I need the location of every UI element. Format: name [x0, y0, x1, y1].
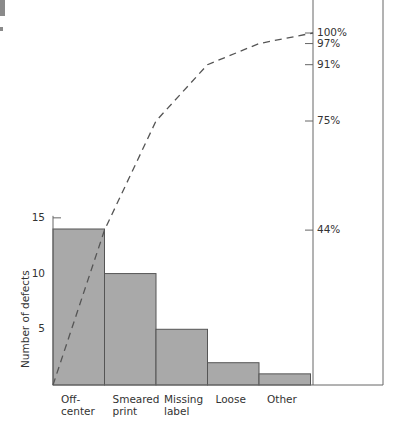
y-tick-label: 10	[25, 267, 45, 279]
bar-missing-label	[156, 329, 208, 385]
x-category-label: Smearedprint	[113, 393, 160, 417]
y-axis-label: Number of defects	[19, 270, 31, 368]
pct-label: 44%	[317, 223, 340, 235]
bar-smeared-print	[105, 274, 157, 385]
bar-loose	[208, 363, 260, 385]
x-category-label: Other	[267, 393, 297, 405]
x-category-label: Missinglabel	[164, 393, 203, 417]
pareto-chart: Number of defects 51015100%97%91%75%44%O…	[0, 0, 407, 435]
x-category-label: Loose	[216, 393, 246, 405]
pct-label: 97%	[317, 37, 340, 49]
y-tick-label: 15	[25, 211, 45, 223]
pct-label: 75%	[317, 114, 340, 126]
y-tick-label: 5	[25, 322, 45, 334]
pct-label: 91%	[317, 58, 340, 70]
x-category-label: Off-center	[61, 393, 95, 417]
bar-other	[259, 374, 311, 385]
plot-area	[0, 0, 407, 435]
